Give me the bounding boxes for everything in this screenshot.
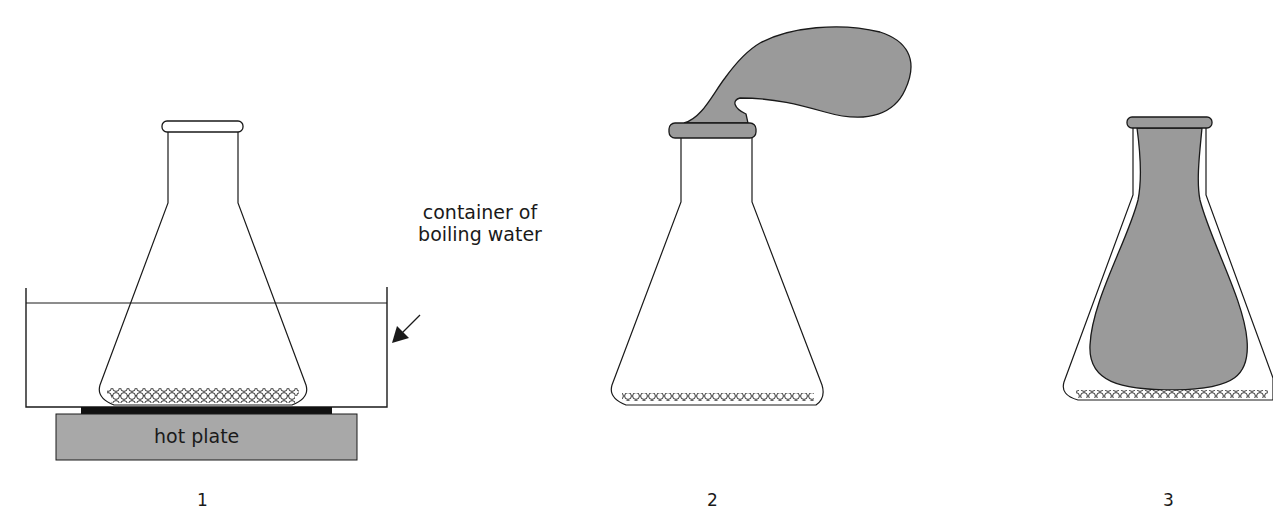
annotation-label: container of boiling water: [410, 201, 550, 245]
glass-beads-2: [622, 393, 814, 401]
diagram-canvas: [0, 0, 1273, 530]
step-label-3: 3: [1163, 490, 1174, 510]
step-label-1: 1: [197, 490, 208, 510]
annotation-arrow: [392, 315, 420, 343]
balloon-rim-3: [1127, 117, 1212, 128]
annotation-line-1: container of: [410, 201, 550, 223]
step-label-2: 2: [707, 490, 718, 510]
glass-beads-1: [107, 388, 299, 403]
inverted-balloon: [1090, 128, 1247, 390]
glass-beads-3: [1076, 390, 1268, 398]
flask-2: [611, 138, 823, 405]
annotation-line-2: boiling water: [410, 223, 550, 245]
flask-1: [99, 121, 306, 405]
panel-2: [611, 27, 911, 405]
inflated-balloon: [684, 27, 911, 123]
hot-plate-label: hot plate: [154, 425, 239, 447]
panel-1: [26, 121, 420, 460]
balloon-neck-rim: [669, 123, 756, 138]
panel-3: [1063, 117, 1273, 400]
